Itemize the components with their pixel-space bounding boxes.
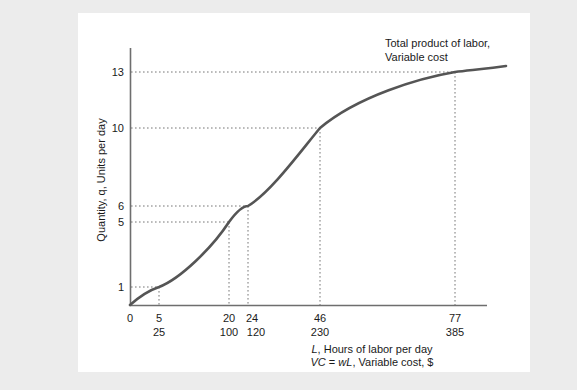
x-tick-labels-cost: 25 100 120 230 385 (153, 326, 464, 338)
y-tick-labels: 13 10 6 5 1 (112, 66, 124, 293)
chart-figure: 13 10 6 5 1 0 5 20 24 46 77 25 100 120 2… (0, 0, 577, 390)
y-tick-label-5: 5 (118, 216, 124, 228)
y-tick-label-13: 13 (112, 66, 124, 78)
x-tick-label-cost-385: 385 (446, 326, 464, 338)
x-tick-label-cost-25: 25 (153, 326, 165, 338)
x-tick-label-cost-230: 230 (311, 326, 329, 338)
x-tick-label-hours-20: 20 (223, 312, 235, 324)
x-axis-title-line2-text: , Variable cost, $ (352, 356, 433, 368)
curve-annotation-line2: Variable cost (385, 51, 448, 63)
x-axis-title-line2-eq: = (326, 356, 339, 368)
x-axis-title-line1: L, Hours of labor per day (311, 343, 433, 355)
x-axis-title-line1-text: , Hours of labor per day (318, 343, 433, 355)
x-axis-title-line2-wl: wL (338, 356, 352, 368)
y-tick-label-10: 10 (112, 122, 124, 134)
x-axis-title-line2: VC = wL, Variable cost, $ (310, 356, 433, 368)
x-tick-label-hours-0: 0 (127, 312, 133, 324)
guide-lines (131, 72, 455, 305)
y-axis-title: Quantity, q, Units per day (95, 118, 107, 242)
x-tick-label-hours-77: 77 (449, 312, 461, 324)
y-tick-label-6: 6 (118, 200, 124, 212)
curve-annotation-line1: Total product of labor, (385, 37, 490, 49)
x-tick-label-hours-5: 5 (156, 312, 162, 324)
x-tick-label-cost-120: 120 (247, 326, 265, 338)
x-tick-label-hours-24: 24 (246, 312, 258, 324)
x-tick-labels-hours: 0 5 20 24 46 77 (127, 312, 461, 324)
total-product-curve (130, 66, 506, 305)
x-tick-label-hours-46: 46 (314, 312, 326, 324)
y-tick-label-1: 1 (118, 281, 124, 293)
x-tick-label-cost-100: 100 (220, 326, 238, 338)
x-axis-title-line2-vc: VC (310, 356, 325, 368)
